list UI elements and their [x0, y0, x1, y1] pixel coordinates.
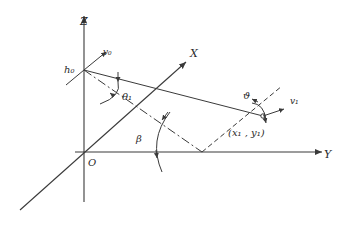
v0-label: v₀ [103, 47, 112, 57]
x-axis [20, 62, 186, 210]
x-axis-label: X [189, 47, 199, 60]
diagram-canvas: Z X Y O h₀ v₀ θ₁ β ϑ v₁ (x₁ , y₁) [0, 0, 347, 228]
vartheta-label: ϑ [243, 90, 250, 101]
origin-label: O [88, 157, 96, 168]
vartheta-arrow-top [252, 99, 258, 102]
theta-label: θ₁ [122, 91, 132, 102]
target-coordinates-label: (x₁ , y₁) [228, 127, 265, 138]
projection-line [84, 70, 202, 152]
beta-arc [157, 112, 170, 172]
v1-vector [263, 109, 284, 116]
beta-label: β [135, 133, 142, 144]
line-of-sight [84, 70, 263, 116]
y-axis-label: Y [324, 148, 333, 161]
h0-label: h₀ [64, 64, 74, 75]
v1-label: v₁ [290, 96, 299, 106]
z-axis-label: Z [79, 15, 88, 28]
coordinate-diagram: Z X Y O h₀ v₀ θ₁ β ϑ v₁ (x₁ , y₁) [0, 0, 347, 228]
target-heading-line [202, 86, 282, 152]
theta-arc [100, 82, 119, 104]
theta-arrow-bottom [110, 93, 114, 96]
